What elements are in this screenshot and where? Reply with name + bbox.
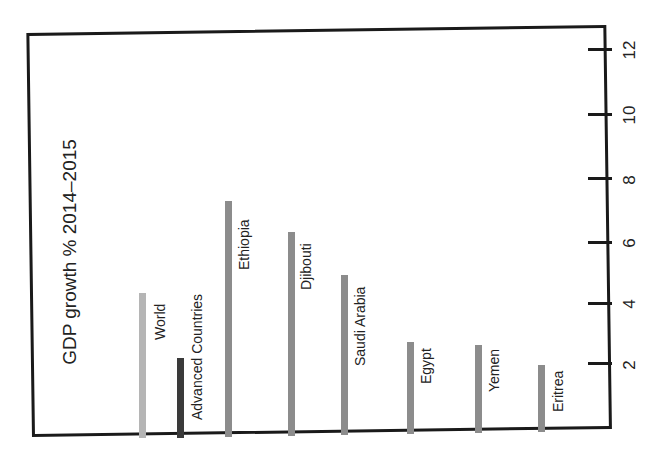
tick-10 xyxy=(588,113,612,116)
bar-egypt xyxy=(407,342,414,434)
tick-label-8: 8 xyxy=(620,175,640,184)
tick-label-2: 2 xyxy=(620,360,640,369)
tick-4 xyxy=(588,302,612,305)
tick-label-4: 4 xyxy=(620,299,640,308)
bar-label-egypt: Egypt xyxy=(418,348,434,384)
bar-advanced-countries xyxy=(177,358,184,438)
chart-title: GDP growth % 2014–2015 xyxy=(59,139,81,365)
bar-label-saudi-arabia: Saudi Arabia xyxy=(352,287,368,366)
bar-label-djibouti: Djibouti xyxy=(298,243,314,290)
tick-2 xyxy=(588,362,612,365)
chart-frame xyxy=(26,25,612,437)
tick-12 xyxy=(588,48,612,51)
bar-label-world: World xyxy=(152,304,168,340)
bar-eritrea xyxy=(538,365,545,432)
tick-6 xyxy=(588,241,612,244)
tick-8 xyxy=(588,177,612,180)
bar-yemen xyxy=(475,345,482,433)
bar-label-advanced-countries: Advanced Countries xyxy=(189,294,205,420)
bar-ethiopia xyxy=(225,201,232,437)
tick-label-6: 6 xyxy=(620,238,640,247)
bar-label-eritrea: Eritrea xyxy=(550,371,566,412)
bar-label-yemen: Yemen xyxy=(486,349,502,392)
bar-world xyxy=(139,293,146,438)
bar-label-ethiopia: Ethiopia xyxy=(236,219,252,270)
bar-saudi-arabia xyxy=(341,275,348,435)
tick-label-10: 10 xyxy=(620,106,640,125)
tick-label-12: 12 xyxy=(620,41,640,60)
bar-djibouti xyxy=(288,232,295,436)
